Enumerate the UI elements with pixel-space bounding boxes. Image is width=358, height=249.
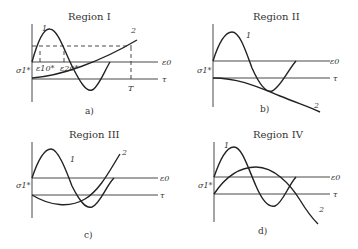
svg-text:τ: τ [160, 191, 165, 200]
svg-text:σ1*: σ1* [16, 181, 31, 190]
svg-text:T: T [128, 84, 134, 93]
svg-text:σ1*: σ1* [16, 66, 31, 75]
panel-b: Region II 1 2 ε0 τ σ1* b) [197, 11, 339, 114]
svg-text:1: 1 [70, 155, 75, 164]
panel-c: Region III 1 2 ε0 τ σ1* c) [16, 129, 169, 240]
svg-text:b): b) [260, 104, 269, 114]
svg-text:ε0: ε0 [330, 57, 339, 66]
svg-text:Region IV: Region IV [253, 129, 304, 140]
svg-text:2: 2 [130, 26, 136, 35]
svg-text:τ: τ [162, 75, 167, 84]
svg-text:d): d) [258, 226, 267, 236]
svg-text:a): a) [85, 106, 94, 116]
svg-text:1: 1 [42, 24, 47, 33]
svg-text:τ: τ [333, 190, 338, 199]
svg-text:Region II: Region II [253, 11, 300, 22]
svg-text:σ1*: σ1* [197, 66, 212, 75]
svg-text:ε10*: ε10* [36, 64, 54, 73]
svg-text:2: 2 [313, 101, 319, 110]
panel-a: Region I 1 2 ε0 τ σ1* ε10* ε20* T a) [16, 11, 171, 116]
svg-text:τ: τ [333, 74, 338, 83]
svg-text:ε20*: ε20* [60, 64, 78, 73]
svg-text:c): c) [84, 230, 93, 240]
svg-text:ε0: ε0 [162, 58, 171, 67]
svg-text:ε0: ε0 [331, 173, 340, 182]
panel-a-title: Region I [68, 11, 111, 22]
svg-text:ε0: ε0 [160, 174, 169, 183]
svg-text:1: 1 [224, 141, 229, 150]
svg-text:Region III: Region III [69, 129, 120, 140]
svg-text:2: 2 [318, 205, 324, 214]
svg-text:1: 1 [246, 31, 251, 40]
panel-d: Region IV 1 2 ε0 τ σ1* d) [198, 129, 340, 236]
svg-text:2: 2 [121, 148, 127, 157]
svg-text:σ1*: σ1* [198, 181, 213, 190]
diagram-canvas: Region I 1 2 ε0 τ σ1* ε10* ε20* T a) Reg… [0, 0, 358, 249]
